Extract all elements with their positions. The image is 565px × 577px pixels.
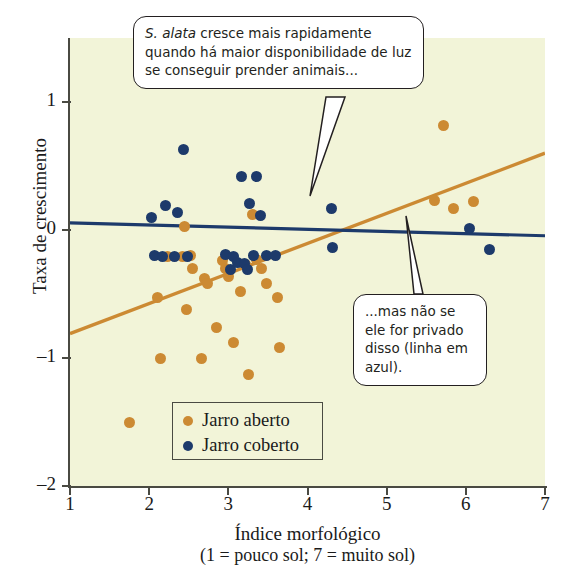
data-point-closed xyxy=(484,244,495,255)
data-point-closed xyxy=(146,212,157,223)
data-point-open xyxy=(211,322,222,333)
data-point-closed xyxy=(172,207,183,218)
growth-rate-scatter-figure: 10–1–21234567 Taxa de crescimento Índice… xyxy=(0,0,565,577)
data-point-closed xyxy=(251,171,262,182)
data-point-closed xyxy=(178,144,189,155)
data-point-open xyxy=(261,278,272,289)
legend-marker-closed-icon xyxy=(183,441,193,451)
legend-item-closed: Jarro coberto xyxy=(183,433,322,458)
data-point-open xyxy=(235,286,246,297)
data-point-open xyxy=(256,263,267,274)
data-point-open xyxy=(181,304,192,315)
legend-label-closed: Jarro coberto xyxy=(202,435,299,456)
data-point-open xyxy=(429,195,440,206)
data-point-closed xyxy=(244,198,255,209)
legend-box: Jarro aberto Jarro coberto xyxy=(172,402,323,460)
data-point-closed xyxy=(182,251,193,262)
callout-growth-note: S. alata cresce mais rapidamente quando … xyxy=(133,16,424,89)
data-point-open xyxy=(152,292,163,303)
data-point-open xyxy=(274,342,285,353)
data-point-open xyxy=(438,120,449,131)
data-point-open xyxy=(228,337,239,348)
callout-covered-note: ...mas não se ele for privado disso (lin… xyxy=(353,294,487,386)
legend-marker-open-icon xyxy=(183,416,193,426)
data-point-closed xyxy=(326,203,337,214)
data-point-open xyxy=(155,353,166,364)
legend-label-open: Jarro aberto xyxy=(202,410,290,431)
legend-item-open: Jarro aberto xyxy=(183,408,322,433)
data-point-closed xyxy=(236,171,247,182)
data-point-closed xyxy=(255,210,266,221)
data-point-open xyxy=(196,353,207,364)
data-point-open xyxy=(124,417,135,428)
data-point-open xyxy=(179,221,190,232)
data-point-closed xyxy=(242,264,253,275)
